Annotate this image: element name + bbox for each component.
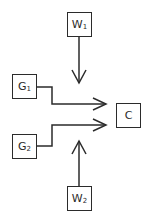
node-g1-subscript: 1 [27, 85, 31, 93]
arrow-w2-to-c [72, 141, 86, 186]
node-w1: W1 [67, 12, 92, 37]
arrow-g2-to-c [36, 119, 106, 146]
node-w1-label: W [72, 18, 83, 31]
node-c: C [116, 103, 141, 128]
node-g1: G1 [12, 74, 37, 99]
node-g2: G2 [12, 134, 37, 159]
node-g2-label: G [18, 140, 27, 153]
node-g1-label: G [18, 80, 27, 93]
arrow-w1-to-c [72, 37, 86, 83]
node-w1-subscript: 1 [83, 23, 87, 31]
node-g2-subscript: 2 [27, 145, 31, 153]
node-w2-label: W [72, 192, 83, 205]
node-c-label: C [125, 109, 133, 122]
node-w2: W2 [67, 186, 92, 211]
arrow-g1-to-c [36, 87, 106, 110]
node-w2-subscript: 2 [83, 197, 87, 205]
